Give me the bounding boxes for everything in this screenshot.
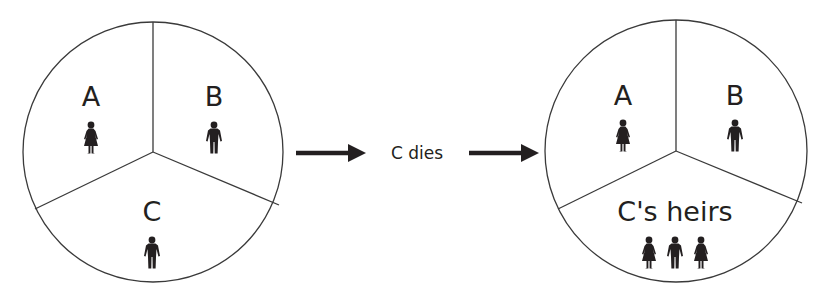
before-label-c: C	[143, 196, 162, 227]
after-label-c-heirs: C's heirs	[617, 196, 732, 227]
before-label-a: A	[82, 81, 101, 112]
after-pie: A B C's heirs	[545, 20, 807, 282]
transition: C dies	[296, 143, 521, 163]
diagram-canvas: A B C C dies A B C's heirs	[0, 0, 836, 298]
after-label-a: A	[614, 80, 633, 111]
before-label-b: B	[205, 81, 224, 112]
after-label-b: B	[726, 80, 745, 111]
event-label: C dies	[391, 143, 443, 163]
before-pie: A B C	[23, 22, 283, 282]
